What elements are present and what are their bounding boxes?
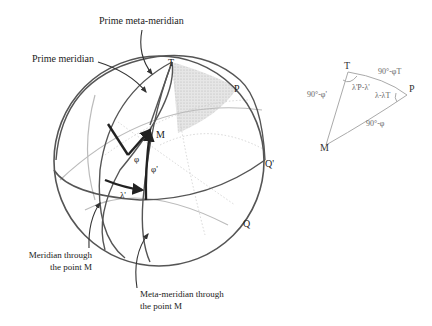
angle-phi: φ <box>134 154 139 164</box>
label-meta-meridian-through-m-line2: the point M <box>140 301 182 311</box>
leader-meta-meridian-through-m <box>136 234 148 288</box>
phi-prime-arrow <box>146 132 150 200</box>
angle-arc-p <box>395 93 397 102</box>
spherical-triangle: T P M 90°-φT 90°-φ' 90°-φ λ'P-λ' λ-λT <box>307 60 415 153</box>
point-p: P <box>234 83 240 94</box>
angle-arc-t <box>343 76 357 82</box>
faint-circle-3 <box>88 95 96 200</box>
label-prime-meridian: Prime meridian <box>32 53 94 64</box>
shaded-region <box>172 62 237 133</box>
angle-phi-prime: φ' <box>151 164 158 174</box>
point-t: T <box>168 57 174 68</box>
triangle-angle-t-label: λ'P-λ' <box>352 83 370 92</box>
spherical-coordinates-diagram: Prime meta-meridian Prime meridian Merid… <box>0 0 432 326</box>
triangle-vertex-m: M <box>320 142 329 153</box>
equator <box>54 160 265 200</box>
label-meridian-through-m-line1: Meridian through <box>29 250 93 260</box>
triangle-vertex-p: P <box>409 83 415 94</box>
leader-prime-meta-meridian <box>141 30 152 74</box>
triangle-side-pm-label: 90°-φ <box>366 119 385 128</box>
triangle-side-tp-label: 90°-φT <box>378 67 401 76</box>
label-prime-meta-meridian: Prime meta-meridian <box>99 15 184 26</box>
label-meta-meridian-through-m-line1: Meta-meridian through <box>140 289 224 299</box>
triangle-angle-p-label: λ-λT <box>375 91 390 100</box>
triangle-side-tm-label: 90°-φ' <box>307 90 327 99</box>
point-q-prime: Q' <box>265 158 274 169</box>
angle-lambda-prime: λ' <box>120 190 126 200</box>
hidden-circle-3 <box>160 134 265 150</box>
point-q: Q <box>243 218 251 229</box>
point-m: M <box>156 129 165 140</box>
triangle-vertex-t: T <box>344 60 350 71</box>
label-meridian-through-m-line2: the point M <box>50 262 92 272</box>
